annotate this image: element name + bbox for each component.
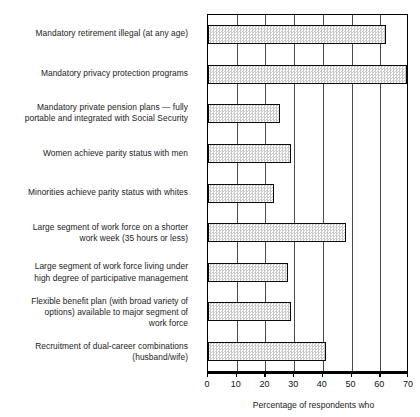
category-label-row: Mandatory retirement illegal (at any age… — [0, 14, 196, 54]
category-label-row: Minorities achieve parity status with wh… — [0, 173, 196, 213]
x-axis-tick-label: 40 — [317, 379, 327, 389]
bar — [208, 302, 291, 321]
bar — [208, 104, 280, 123]
bar-row — [208, 15, 407, 55]
x-axis-tick — [207, 372, 208, 377]
x-axis-tick-label: 10 — [231, 379, 241, 389]
bar — [208, 223, 346, 242]
bar — [208, 263, 288, 282]
x-axis-tick-label: 60 — [374, 379, 384, 389]
x-axis-tick — [322, 372, 323, 377]
plot-area — [207, 14, 408, 372]
x-axis-tick-label: 30 — [288, 379, 298, 389]
category-label-row: Mandatory private pension plans — fully … — [0, 94, 196, 134]
bar-row — [208, 94, 407, 134]
category-label: Mandatory retirement illegal (at any age… — [36, 28, 188, 39]
x-axis-tick-label: 50 — [346, 379, 356, 389]
bar — [208, 342, 326, 361]
bar-row — [208, 252, 407, 292]
bar-row — [208, 292, 407, 332]
category-label: Recruitment of dual-career combinations … — [35, 341, 188, 363]
category-label-row: Large segment of work force living under… — [0, 253, 196, 293]
category-label: Minorities achieve parity status with wh… — [28, 187, 188, 198]
bar — [208, 65, 407, 84]
category-label: Women achieve parity status with men — [43, 148, 188, 159]
category-label-row: Large segment of work force on a shorter… — [0, 213, 196, 253]
bar — [208, 25, 386, 44]
bar-row — [208, 134, 407, 174]
bar — [208, 184, 274, 203]
x-axis-tick — [379, 372, 380, 377]
x-axis-tick-label: 70 — [403, 379, 413, 389]
x-axis-tick-label: 0 — [204, 379, 209, 389]
x-axis-tick — [236, 372, 237, 377]
x-axis-tick — [293, 372, 294, 377]
category-label-row: Mandatory privacy protection programs — [0, 54, 196, 94]
category-label: Mandatory privacy protection programs — [41, 68, 188, 79]
bar-row — [208, 173, 407, 213]
x-axis-tick — [264, 372, 265, 377]
category-label-row: Recruitment of dual-career combinations … — [0, 332, 196, 372]
bar-row — [208, 332, 407, 372]
x-axis-tick — [351, 372, 352, 377]
category-label: Mandatory private pension plans — fully … — [25, 102, 188, 124]
category-label-row: Flexible benefit plan (with broad variet… — [0, 292, 196, 332]
category-label: Large segment of work force living under… — [34, 261, 188, 283]
category-label: Flexible benefit plan (with broad variet… — [31, 296, 188, 330]
x-axis-tick-label: 20 — [259, 379, 269, 389]
bar-row — [208, 213, 407, 253]
bar-series — [208, 15, 407, 371]
category-label-column: Mandatory retirement illegal (at any age… — [0, 14, 196, 372]
bar-row — [208, 55, 407, 95]
x-axis-tick — [407, 372, 408, 377]
x-axis: 010203040506070 — [207, 372, 408, 373]
category-label-row: Women achieve parity status with men — [0, 133, 196, 173]
bar — [208, 144, 291, 163]
category-label: Large segment of work force on a shorter… — [33, 222, 188, 244]
x-axis-caption: Percentage of respondents who — [207, 400, 420, 410]
x-axis-line — [207, 372, 408, 374]
bar-chart: Mandatory retirement illegal (at any age… — [0, 0, 420, 417]
